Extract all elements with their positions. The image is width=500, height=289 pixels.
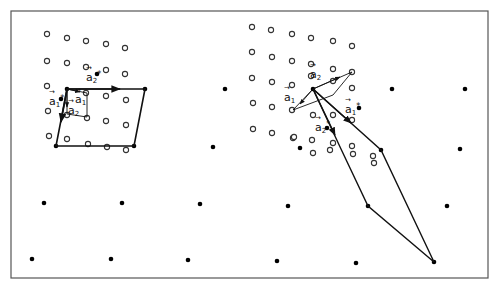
label-right-a1: a1: [284, 92, 295, 105]
filled-lattice-point: [211, 145, 216, 150]
filled-lattice-point: [42, 201, 47, 206]
open-lattice-point: [349, 143, 354, 148]
open-lattice-point: [45, 108, 50, 113]
filled-lattice-point: [354, 261, 359, 266]
open-lattice-point: [269, 79, 274, 84]
filled-lattice-point: [275, 259, 280, 264]
filled-lattice-point: [463, 87, 468, 92]
open-lattice-point: [269, 130, 274, 135]
open-lattice-point: [103, 41, 108, 46]
open-lattice-point: [310, 150, 315, 155]
open-lattice-point: [370, 153, 375, 158]
open-lattice-point: [103, 93, 108, 98]
open-lattice-point: [268, 27, 273, 32]
open-circle-lattice: [44, 24, 376, 165]
unit-cells: [56, 72, 434, 262]
label-right-a1star: a1*: [345, 103, 360, 117]
label-right-a2star: a2*: [315, 121, 330, 135]
open-lattice-point: [103, 118, 108, 123]
filled-lattice-point: [30, 257, 35, 262]
filled-lattice-point: [298, 146, 303, 151]
open-lattice-point: [308, 35, 313, 40]
open-lattice-point: [349, 43, 354, 48]
label-left-a2: a2: [68, 105, 79, 118]
open-lattice-point: [330, 140, 335, 145]
open-lattice-point: [350, 151, 355, 156]
open-lattice-point: [44, 58, 49, 63]
open-lattice-point: [122, 71, 127, 76]
open-lattice-point: [104, 144, 109, 149]
filled-dot-lattice: [30, 72, 468, 266]
open-lattice-point: [122, 45, 127, 50]
filled-lattice-point: [109, 257, 114, 262]
filled-lattice-point: [198, 202, 203, 207]
open-lattice-point: [46, 133, 51, 138]
reciprocal-lattice-diagram: a2* a1* a1 a2 a2 a1 a1* a2*: [0, 0, 500, 289]
open-lattice-point: [330, 38, 335, 43]
diagram-canvas: [0, 0, 500, 289]
label-left-a1star: a1*: [49, 95, 64, 109]
open-lattice-point: [289, 82, 294, 87]
open-lattice-point: [64, 35, 69, 40]
filled-lattice-point: [223, 87, 228, 92]
open-lattice-point: [327, 147, 332, 152]
filled-lattice-point: [390, 87, 395, 92]
open-lattice-point: [249, 49, 254, 54]
open-lattice-point: [269, 104, 274, 109]
filled-lattice-point: [445, 204, 450, 209]
open-lattice-point: [309, 137, 314, 142]
open-lattice-point: [250, 126, 255, 131]
open-lattice-point: [249, 75, 254, 80]
filled-lattice-point: [120, 201, 125, 206]
open-lattice-point: [250, 100, 255, 105]
open-lattice-point: [289, 58, 294, 63]
filled-lattice-point: [186, 258, 191, 263]
open-lattice-point: [330, 66, 335, 71]
open-lattice-point: [103, 67, 108, 72]
open-lattice-point: [330, 112, 335, 117]
right-a1-vector: [300, 89, 313, 104]
open-lattice-point: [289, 31, 294, 36]
open-lattice-point: [64, 136, 69, 141]
open-lattice-point: [44, 31, 49, 36]
open-lattice-point: [371, 160, 376, 165]
open-lattice-point: [291, 134, 296, 139]
open-lattice-point: [64, 60, 69, 65]
open-lattice-point: [249, 24, 254, 29]
label-right-a2: a2: [310, 69, 321, 82]
open-lattice-point: [269, 54, 274, 59]
filled-lattice-point: [458, 147, 463, 152]
right-primitive-cell: [293, 72, 352, 110]
open-lattice-point: [349, 85, 354, 90]
open-lattice-point: [123, 97, 128, 102]
open-lattice-point: [123, 122, 128, 127]
filled-lattice-point: [286, 204, 291, 209]
open-lattice-point: [83, 38, 88, 43]
label-left-a2star: a2*: [86, 71, 101, 85]
open-lattice-point: [123, 147, 128, 152]
